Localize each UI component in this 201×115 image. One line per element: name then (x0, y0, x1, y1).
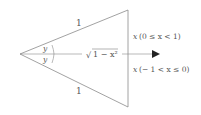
lower-angle-arc (52, 54, 54, 63)
lower-condition: (− 1 < x ≤ 0) (139, 65, 189, 74)
triangle-diagram: 1 1 y y √ 1 − x² x (0 ≤ x < 1) x (− 1 < … (0, 0, 201, 115)
lower-angle-label: y (42, 55, 48, 64)
lower-side (20, 54, 128, 107)
upper-angle-arc (52, 45, 54, 54)
upper-angle-label: y (42, 44, 48, 53)
lower-condition-var: x (133, 65, 138, 74)
sqrt-radicand: 1 − x² (93, 50, 118, 59)
upper-condition: (0 ≤ x < 1) (139, 32, 181, 41)
sqrt-symbol: √ (86, 51, 92, 60)
arrowhead-icon (152, 50, 160, 58)
upper-side-label: 1 (76, 18, 82, 28)
upper-condition-var: x (133, 32, 138, 41)
upper-side (20, 10, 128, 54)
lower-side-label: 1 (76, 86, 82, 96)
